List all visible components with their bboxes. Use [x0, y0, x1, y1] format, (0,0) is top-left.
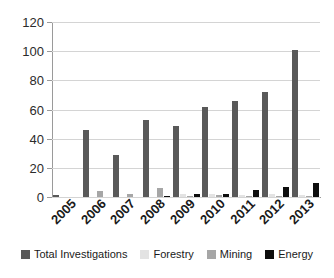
x-axis-tick-label: 2011 [227, 196, 258, 227]
bar [173, 126, 179, 197]
bar [262, 92, 268, 197]
bar-group [231, 22, 261, 197]
bar [223, 194, 229, 197]
legend-swatch-icon [207, 250, 216, 259]
x-axis-tick-label: 2009 [167, 196, 198, 227]
bar [209, 194, 215, 197]
bar [164, 196, 170, 198]
x-axis-label-cell: 2007 [112, 198, 142, 240]
bar-chart: 020406080100120 200520062007200820092010… [0, 0, 334, 278]
bar [292, 50, 298, 197]
chart-legend: Total InvestigationsForestryMiningEnergy [0, 248, 334, 260]
x-axis-label-cell: 2006 [82, 198, 112, 240]
x-axis-tick-label: 2007 [107, 196, 138, 227]
x-axis-label-cell: 2010 [201, 198, 231, 240]
y-axis-tick-label: 60 [30, 102, 44, 117]
bar [143, 120, 149, 197]
bar [53, 195, 59, 197]
bar-group [52, 22, 82, 197]
y-axis-tick-label: 120 [22, 15, 44, 30]
legend-item[interactable]: Mining [207, 248, 252, 260]
bar-group [82, 22, 112, 197]
legend-swatch-icon [21, 250, 30, 259]
y-axis-tick-label: 40 [30, 131, 44, 146]
bar [180, 194, 186, 197]
x-axis-label-cell: 2013 [290, 198, 320, 240]
bar [239, 195, 245, 197]
bar [283, 187, 289, 197]
bar [232, 101, 238, 197]
x-axis-label-cell: 2009 [171, 198, 201, 240]
bar [313, 183, 319, 197]
bar-group [171, 22, 201, 197]
y-axis-tick-label: 100 [22, 44, 44, 59]
x-axis-label-cell: 2005 [52, 198, 82, 240]
x-axis-label-cell: 2008 [141, 198, 171, 240]
y-axis-tick-label: 20 [30, 160, 44, 175]
bar [253, 190, 259, 197]
x-axis-tick-label: 2006 [78, 196, 109, 227]
bar-group [201, 22, 231, 197]
bar [299, 195, 305, 197]
bar-group [112, 22, 142, 197]
legend-swatch-icon [140, 250, 149, 259]
bar-group [141, 22, 171, 197]
legend-item[interactable]: Total Investigations [21, 248, 128, 260]
legend-label: Energy [278, 248, 313, 260]
y-axis-tick-label: 80 [30, 73, 44, 88]
x-axis-tick-label: 2012 [256, 196, 287, 227]
legend-label: Total Investigations [34, 248, 128, 260]
legend-item[interactable]: Forestry [140, 248, 193, 260]
bar [194, 194, 200, 197]
legend-label: Mining [220, 248, 252, 260]
bar [202, 107, 208, 197]
bar [83, 130, 89, 197]
y-axis-tick-label: 0 [37, 190, 44, 205]
x-axis-label-cell: 2012 [260, 198, 290, 240]
x-axis-tick-label: 2010 [197, 196, 228, 227]
bar-group [260, 22, 290, 197]
x-axis-tick-label: 2005 [48, 196, 79, 227]
legend-item[interactable]: Energy [265, 248, 313, 260]
x-axis-labels: 200520062007200820092010201120122013 [52, 198, 320, 240]
x-axis-tick-label: 2008 [137, 196, 168, 227]
bar-groups [52, 22, 320, 197]
bar [113, 155, 119, 197]
legend-label: Forestry [153, 248, 193, 260]
legend-swatch-icon [265, 250, 274, 259]
x-axis-label-cell: 2011 [231, 198, 261, 240]
bar-group [290, 22, 320, 197]
x-axis-tick-label: 2013 [286, 196, 317, 227]
plot-area: 020406080100120 [52, 22, 320, 197]
